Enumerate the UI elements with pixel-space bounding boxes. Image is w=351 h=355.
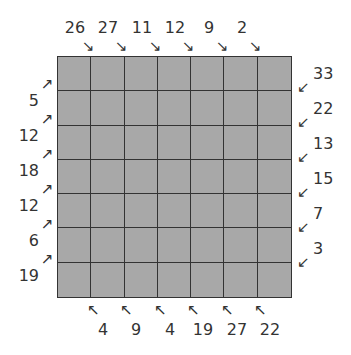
grid-cell[interactable] <box>58 228 91 262</box>
grid-cell[interactable] <box>125 57 158 91</box>
grid-cell[interactable] <box>224 228 257 262</box>
grid-cell[interactable] <box>91 160 124 194</box>
grid-cell[interactable] <box>58 91 91 125</box>
grid-cell[interactable] <box>125 126 158 160</box>
bottom-clue-number: 4 <box>165 322 175 338</box>
arrow-up-left-icon: ↖ <box>154 303 167 318</box>
bottom-clue-number: 9 <box>131 322 141 338</box>
grid-cell[interactable] <box>258 228 291 262</box>
grid-cell[interactable] <box>191 194 224 228</box>
top-clue-number: 26 <box>65 20 85 36</box>
grid-cell[interactable] <box>158 228 191 262</box>
grid-cell[interactable] <box>58 57 91 91</box>
grid-cell[interactable] <box>91 263 124 297</box>
arrow-up-right-icon: ↗ <box>41 77 54 92</box>
bottom-clue-number: 4 <box>98 322 108 338</box>
right-clue-number: 7 <box>313 206 323 222</box>
grid-cell[interactable] <box>158 160 191 194</box>
grid-cell[interactable] <box>91 126 124 160</box>
grid-cell[interactable] <box>58 126 91 160</box>
top-clue-number: 11 <box>132 20 152 36</box>
right-clue-number: 22 <box>313 101 333 117</box>
arrow-down-left-icon: ↙ <box>297 80 310 95</box>
grid-cell[interactable] <box>224 57 257 91</box>
grid-cell[interactable] <box>58 160 91 194</box>
grid-cell[interactable] <box>91 91 124 125</box>
grid-cell[interactable] <box>125 263 158 297</box>
arrow-down-right-icon: ↘ <box>82 39 95 54</box>
right-clue-number: 15 <box>313 171 333 187</box>
grid-cell[interactable] <box>191 263 224 297</box>
grid-cell[interactable] <box>158 194 191 228</box>
top-clue-number: 9 <box>204 20 214 36</box>
arrow-down-left-icon: ↙ <box>297 115 310 130</box>
arrow-down-right-icon: ↘ <box>149 39 162 54</box>
grid-cell[interactable] <box>224 91 257 125</box>
grid-cell[interactable] <box>91 194 124 228</box>
grid-cell[interactable] <box>224 194 257 228</box>
bottom-clue-number: 22 <box>260 322 280 338</box>
grid-cell[interactable] <box>224 160 257 194</box>
grid-cell[interactable] <box>258 263 291 297</box>
top-clue-number: 12 <box>165 20 185 36</box>
grid-cell[interactable] <box>91 228 124 262</box>
arrow-down-right-icon: ↘ <box>115 39 128 54</box>
grid-cell[interactable] <box>125 160 158 194</box>
grid-cell[interactable] <box>191 126 224 160</box>
grid-cell[interactable] <box>125 91 158 125</box>
arrow-up-left-icon: ↖ <box>87 303 100 318</box>
grid-cell[interactable] <box>125 194 158 228</box>
top-clue-number: 27 <box>98 20 118 36</box>
grid-cell[interactable] <box>58 194 91 228</box>
arrow-up-right-icon: ↗ <box>41 182 54 197</box>
arrow-up-right-icon: ↗ <box>41 112 54 127</box>
arrow-down-left-icon: ↙ <box>297 220 310 235</box>
grid-cell[interactable] <box>224 126 257 160</box>
puzzle-grid <box>57 56 292 298</box>
grid-cell[interactable] <box>91 57 124 91</box>
top-clue-number: 2 <box>237 20 247 36</box>
grid-cell[interactable] <box>224 263 257 297</box>
left-clue-number: 19 <box>19 268 39 284</box>
grid-cell[interactable] <box>258 126 291 160</box>
left-clue-number: 12 <box>19 128 39 144</box>
arrow-up-left-icon: ↖ <box>187 303 200 318</box>
grid-cell[interactable] <box>258 91 291 125</box>
grid-cell[interactable] <box>258 194 291 228</box>
left-clue-number: 18 <box>19 163 39 179</box>
left-clue-number: 6 <box>29 233 39 249</box>
arrow-up-right-icon: ↗ <box>41 252 54 267</box>
arrow-up-right-icon: ↗ <box>41 147 54 162</box>
right-clue-number: 13 <box>313 136 333 152</box>
arrow-up-left-icon: ↖ <box>120 303 133 318</box>
grid-cell[interactable] <box>58 263 91 297</box>
right-clue-number: 33 <box>313 66 333 82</box>
arrow-down-left-icon: ↙ <box>297 255 310 270</box>
arrow-down-right-icon: ↘ <box>249 39 262 54</box>
grid-cell[interactable] <box>125 228 158 262</box>
bottom-clue-number: 19 <box>193 322 213 338</box>
grid-cell[interactable] <box>158 263 191 297</box>
grid-cell[interactable] <box>258 57 291 91</box>
grid-cell[interactable] <box>191 160 224 194</box>
grid-cell[interactable] <box>191 228 224 262</box>
grid-cell[interactable] <box>191 57 224 91</box>
arrow-down-left-icon: ↙ <box>297 150 310 165</box>
arrow-up-left-icon: ↖ <box>254 303 267 318</box>
grid-cell[interactable] <box>158 126 191 160</box>
arrow-up-right-icon: ↗ <box>41 217 54 232</box>
grid-cell[interactable] <box>158 91 191 125</box>
grid-cell[interactable] <box>258 160 291 194</box>
bottom-clue-number: 27 <box>227 322 247 338</box>
arrow-down-left-icon: ↙ <box>297 185 310 200</box>
left-clue-number: 12 <box>19 198 39 214</box>
right-clue-number: 3 <box>313 241 323 257</box>
arrow-down-right-icon: ↘ <box>216 39 229 54</box>
left-clue-number: 5 <box>29 93 39 109</box>
grid-cell[interactable] <box>158 57 191 91</box>
arrow-up-left-icon: ↖ <box>221 303 234 318</box>
grid-cell[interactable] <box>191 91 224 125</box>
arrow-down-right-icon: ↘ <box>182 39 195 54</box>
